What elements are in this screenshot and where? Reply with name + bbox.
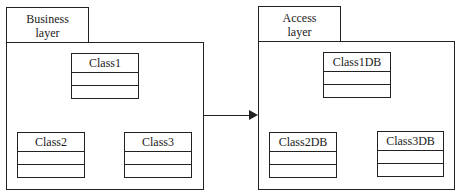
class-name: Class3 [125, 133, 191, 152]
class-name: Class2 [18, 133, 84, 152]
dependency-arrow-line [204, 115, 250, 116]
class-operations-compartment [378, 164, 443, 176]
class-name: Class1DB [324, 53, 390, 72]
class-operations-compartment [125, 165, 191, 177]
class-attributes-compartment [378, 151, 443, 164]
class-box-class2db: Class2DB [269, 132, 337, 178]
class-attributes-compartment [270, 152, 336, 165]
class-box-class3: Class3 [124, 132, 192, 178]
class-box-class3db: Class3DB [377, 131, 444, 177]
class-operations-compartment [18, 165, 84, 177]
business-layer-label-line1: Business [7, 12, 88, 26]
access-layer-label-line1: Access [259, 11, 340, 25]
class-box-class1: Class1 [71, 53, 139, 99]
business-layer-label-line2: layer [7, 26, 88, 40]
class-attributes-compartment [18, 152, 84, 165]
class-operations-compartment [72, 86, 138, 98]
class-box-class2: Class2 [17, 132, 85, 178]
arrowhead-icon [249, 110, 258, 120]
class-attributes-compartment [72, 73, 138, 86]
class-operations-compartment [324, 85, 390, 97]
class-attributes-compartment [324, 72, 390, 85]
class-operations-compartment [270, 165, 336, 177]
business-layer-tab: Business layer [6, 7, 89, 43]
class-name: Class2DB [270, 133, 336, 152]
class-box-class1db: Class1DB [323, 52, 391, 98]
access-layer-label-line2: layer [259, 25, 340, 39]
access-layer-tab: Access layer [258, 6, 341, 42]
class-name: Class3DB [378, 132, 443, 151]
class-attributes-compartment [125, 152, 191, 165]
class-name: Class1 [72, 54, 138, 73]
